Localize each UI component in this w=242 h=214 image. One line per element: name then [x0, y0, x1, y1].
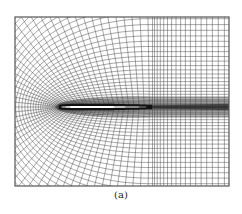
figure-caption: (a): [0, 189, 242, 200]
airfoil-mesh-figure: [0, 0, 242, 214]
mesh-grid: [0, 0, 242, 214]
